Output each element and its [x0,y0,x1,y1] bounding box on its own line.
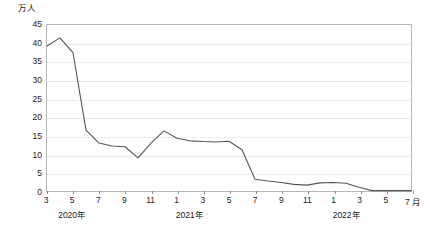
x-axis-tick-mark [73,191,74,194]
x-axis-tick-label: 9 [122,195,127,205]
x-axis-tick-mark [125,191,126,194]
x-axis-tick-mark [256,191,257,194]
x-axis-tick-mark [335,191,336,194]
x-axis-tick-label: 3 [44,195,49,205]
x-axis-year-labels: 2020年2021年2022年 [46,208,426,222]
x-axis-tick-label: 9 [279,195,284,205]
x-axis-tick-mark [230,191,231,194]
x-axis-tick-mark [47,191,48,194]
y-axis-unit-label: 万人 [18,1,36,13]
x-axis-tick-mark [204,191,205,194]
x-axis-tick-label: 1 [174,195,179,205]
x-axis-tick-mark [178,191,179,194]
x-axis-tick-mark [99,191,100,194]
x-axis-tick-label: 3 [357,195,362,205]
y-axis-tick-label: 5 [2,168,42,178]
x-axis-tick-label: 11 [146,195,155,205]
x-axis-tick-label: 7 [253,195,258,205]
y-axis-tick-label: 20 [2,112,42,122]
y-axis-tick-label: 15 [2,131,42,141]
y-axis-tick-label: 10 [2,150,42,160]
series-polyline [47,38,411,191]
x-axis-tick-labels: 35791113579111357月 [46,195,426,209]
plot-area [46,24,412,192]
y-axis-tick-labels: 051015202530354045 [0,24,42,192]
x-axis-tick-mark [413,191,414,194]
x-axis-tick-label: 7 [96,195,101,205]
x-axis-tick-mark [387,191,388,194]
x-axis-tick-mark [308,191,309,194]
x-axis-tick-label: 11 [303,195,312,205]
y-axis-tick-label: 45 [2,19,42,29]
x-axis-tick-mark [282,191,283,194]
x-axis-year-label: 2021年 [176,208,204,220]
x-axis-tick-label: 5 [227,195,232,205]
y-axis-tick-label: 30 [2,75,42,85]
x-axis-year-label: 2022年 [333,208,361,220]
y-axis-tick-label: 0 [2,187,42,197]
series-line-chart [47,25,411,191]
chart-container: 万人 051015202530354045 35791113579111357月… [0,0,435,232]
y-axis-tick-label: 40 [2,38,42,48]
x-axis-tick-mark [361,191,362,194]
x-axis-tick-mark [152,191,153,194]
x-axis-tick-label: 5 [70,195,75,205]
x-axis-tick-label: 7月 [405,195,421,207]
x-axis-tick-label: 3 [200,195,205,205]
y-axis-tick-label: 25 [2,94,42,104]
x-axis-tick-label: 1 [331,195,336,205]
y-axis-tick-label: 35 [2,56,42,66]
x-axis-year-label: 2020年 [58,208,86,220]
x-axis-tick-label: 5 [383,195,388,205]
